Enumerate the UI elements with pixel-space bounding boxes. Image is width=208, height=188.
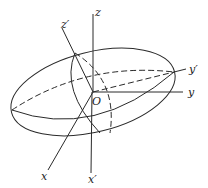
label-origin: O — [92, 95, 101, 108]
cross-section-front — [71, 53, 100, 133]
label-z-prime: z′ — [60, 18, 70, 31]
label-y-prime: y′ — [188, 63, 198, 76]
label-y: y — [187, 86, 195, 99]
label-x-prime: x′ — [88, 173, 97, 186]
label-x: x — [41, 170, 48, 183]
x-axis — [48, 92, 93, 170]
y-prime-axis-outer — [174, 69, 186, 72]
ellipsoid-diagram: z z′ y′ y O x x′ — [0, 0, 208, 188]
label-z: z — [94, 6, 101, 19]
z-prime-axis — [62, 28, 93, 92]
